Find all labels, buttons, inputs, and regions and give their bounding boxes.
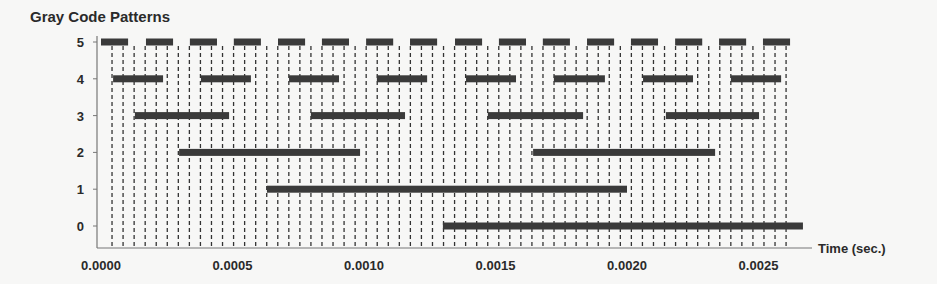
y-tick-label: 3 [77,109,84,124]
y-tick-label: 2 [77,145,84,160]
pattern-bar-row-1 [267,186,627,193]
pattern-bar-row-5 [499,39,526,46]
x-tick-labels: 0.00000.00050.00100.00150.00200.0025 [81,258,778,273]
pattern-bar-row-5 [322,39,349,46]
pattern-bar-row-5 [366,39,393,46]
pattern-bar-row-5 [278,39,305,46]
pattern-bar-row-5 [455,39,482,46]
pattern-bar-row-5 [410,39,437,46]
pattern-bar-row-4 [466,75,516,82]
pattern-bar-row-5 [587,39,614,46]
pattern-bar-row-5 [675,39,702,46]
y-tick-label: 5 [77,35,84,50]
pattern-bar-row-3 [135,112,229,119]
y-tick-label: 0 [77,219,84,234]
x-axis-label: Time (sec.) [818,241,886,256]
y-tick-label: 4 [77,72,85,87]
pattern-bar-row-4 [377,75,427,82]
pattern-bar-row-5 [146,39,173,46]
pattern-bar-row-5 [101,39,128,46]
pattern-bar-row-4 [554,75,605,82]
pattern-bar-row-3 [488,112,583,119]
pattern-bar-row-4 [289,75,339,82]
pattern-bar-row-5 [234,39,261,46]
pattern-bar-row-5 [719,39,746,46]
x-tick-label: 0.0005 [213,258,253,273]
pattern-bar-row-0 [443,223,803,230]
x-tick-label: 0.0025 [739,258,779,273]
pattern-bar-row-5 [543,39,570,46]
pattern-bar-row-4 [643,75,693,82]
x-tick-label: 0.0015 [476,258,516,273]
y-tick-label: 1 [77,182,84,197]
pattern-bar-row-4 [113,75,163,82]
x-tick-label: 0.0010 [344,258,384,273]
pattern-bar-row-5 [631,39,658,46]
y-tick-labels: 012345 [77,35,97,234]
x-tick-label: 0.0020 [607,258,647,273]
pattern-bar-row-5 [190,39,217,46]
gray-code-chart: 012345 0.00000.00050.00100.00150.00200.0… [0,0,937,284]
x-tick-label: 0.0000 [81,258,121,273]
pattern-bar-row-2 [179,149,360,156]
pattern-bar-row-4 [731,75,781,82]
pattern-bar-row-4 [201,75,251,82]
pattern-bar-row-2 [533,149,715,156]
pattern-bar-row-3 [311,112,405,119]
pattern-bar-row-5 [763,39,790,46]
pattern-bar-row-3 [666,112,759,119]
